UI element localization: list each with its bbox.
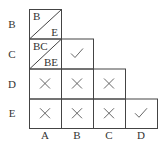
column-label: A [41, 129, 49, 141]
column-label: D [137, 129, 145, 141]
check-icon [71, 49, 83, 58]
table-cell [62, 39, 94, 69]
cross-icon [104, 108, 114, 118]
cell-top-label: BC [33, 40, 48, 52]
row-label: C [8, 48, 15, 60]
row-label: E [9, 107, 16, 119]
row-label: D [8, 78, 16, 90]
pairwise-comparison-table: BCDEABCDBEBCBE [0, 0, 164, 142]
table-cell [126, 99, 158, 129]
cross-icon [72, 108, 82, 118]
column-label: C [105, 129, 112, 141]
column-label: B [73, 129, 80, 141]
cell-bottom-label: E [51, 26, 58, 38]
check-icon [135, 108, 147, 117]
cell-top-label: B [33, 10, 40, 22]
cross-icon [40, 108, 50, 118]
cross-icon [72, 79, 82, 89]
row-label: B [8, 18, 15, 30]
cross-icon [104, 79, 114, 89]
cross-icon [40, 79, 50, 89]
cell-bottom-label: BE [44, 56, 58, 68]
